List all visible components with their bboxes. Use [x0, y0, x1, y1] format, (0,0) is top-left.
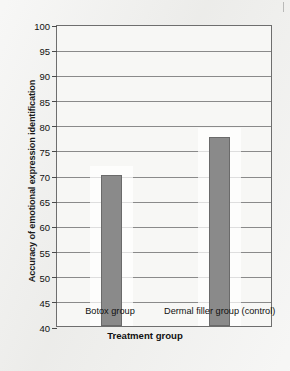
y-axis-tick-label: 60	[39, 222, 50, 233]
bar-1	[101, 175, 122, 326]
gridline	[57, 277, 271, 278]
bar-chart-figure: Accuracy of emotional expression identif…	[0, 0, 290, 371]
y-axis-tick-label: 55	[39, 247, 50, 258]
y-axis-tick	[52, 126, 57, 127]
y-axis-tick-label: 80	[39, 121, 50, 132]
page-edge-mark	[283, 2, 284, 12]
y-axis-tick	[52, 101, 57, 102]
y-axis-tick	[52, 302, 57, 303]
gridline	[57, 302, 271, 303]
y-axis-tick-label: 70	[39, 172, 50, 183]
y-axis-tick	[52, 51, 57, 52]
y-axis-tick-label: 95	[39, 46, 50, 57]
gridline	[57, 76, 271, 77]
y-axis-tick-label: 100	[34, 21, 50, 32]
x-axis-tick-label: Botox group	[56, 306, 164, 316]
y-axis-tick	[52, 252, 57, 253]
gridline	[57, 227, 271, 228]
gridline	[57, 101, 271, 102]
gridline	[57, 126, 271, 127]
y-axis-tick-label: 85	[39, 96, 50, 107]
y-axis-tick	[52, 26, 57, 27]
y-axis-tick	[52, 328, 57, 329]
gridline	[57, 202, 271, 203]
gridline	[57, 252, 271, 253]
x-axis-title: Treatment group	[0, 330, 290, 341]
y-axis-tick-label: 75	[39, 146, 50, 157]
y-axis-tick	[52, 76, 57, 77]
y-axis-tick-label: 90	[39, 71, 50, 82]
y-axis-tick	[52, 151, 57, 152]
gridline	[57, 51, 271, 52]
y-axis-tick	[52, 177, 57, 178]
x-axis-tick-label: Dermal filler group (control)	[164, 306, 272, 316]
y-axis-tick	[52, 277, 57, 278]
y-axis-tick-label: 65	[39, 197, 50, 208]
gridline	[57, 151, 271, 152]
y-axis-title: Accuracy of emotional expression identif…	[27, 21, 37, 341]
y-axis-tick-label: 45	[39, 297, 50, 308]
y-axis-tick-label: 50	[39, 272, 50, 283]
bar-2	[209, 137, 230, 326]
y-axis-tick	[52, 227, 57, 228]
y-axis-tick	[52, 202, 57, 203]
plot-area: 404550556065707580859095100	[56, 25, 272, 327]
gridline	[57, 177, 271, 178]
